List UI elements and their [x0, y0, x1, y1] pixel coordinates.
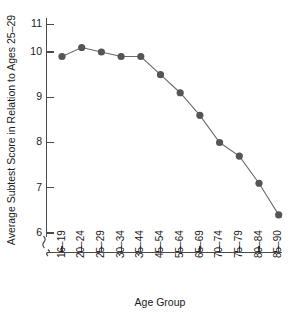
- x-tick-label-7: 65–69: [194, 230, 205, 258]
- x-tick-label-11: 85–90: [272, 230, 283, 258]
- data-point: [118, 53, 125, 60]
- data-point: [196, 112, 203, 119]
- chart-figure: Average Subtest Score in Relation to Age…: [0, 0, 294, 317]
- data-point: [157, 71, 164, 78]
- x-tick-label-3: 30–34: [115, 230, 126, 258]
- data-point: [216, 139, 223, 146]
- x-tick-label-2: 25–29: [95, 230, 106, 258]
- x-tick-label-0: 16–19: [56, 230, 67, 258]
- y-tick-label-10: 10: [30, 45, 42, 57]
- y-tick-label-11: 11: [31, 17, 42, 29]
- data-point: [137, 53, 144, 60]
- y-axis-title: Average Subtest Score in Relation to Age…: [5, 15, 17, 246]
- x-tick-label-5: 45–54: [154, 230, 165, 258]
- x-tick-label-10: 80–84: [253, 230, 264, 258]
- data-point: [275, 211, 282, 218]
- y-tick-label-7: 7: [36, 181, 42, 193]
- y-tick-label-6: 6: [36, 226, 42, 238]
- data-series-line: [62, 47, 279, 214]
- data-point: [58, 53, 65, 60]
- data-series-markers: [58, 44, 282, 219]
- x-tick-label-8: 70–74: [213, 230, 224, 258]
- data-point: [78, 44, 85, 51]
- data-point: [177, 89, 184, 96]
- x-tick-label-4: 35–44: [134, 230, 145, 258]
- data-point: [255, 180, 262, 187]
- x-axis-break-icon: [47, 250, 50, 257]
- data-point: [236, 152, 243, 159]
- x-tick-label-1: 20–24: [75, 230, 86, 258]
- line-chart-svg: Average Subtest Score in Relation to Age…: [0, 0, 294, 317]
- y-tick-label-8: 8: [36, 135, 42, 147]
- y-axis-break-icon: [43, 236, 45, 248]
- x-tick-label-9: 75–79: [233, 230, 244, 258]
- x-axis-title: Age Group: [135, 296, 186, 308]
- x-tick-label-6: 55–64: [174, 230, 185, 258]
- data-point: [98, 48, 105, 55]
- y-tick-label-9: 9: [36, 90, 42, 102]
